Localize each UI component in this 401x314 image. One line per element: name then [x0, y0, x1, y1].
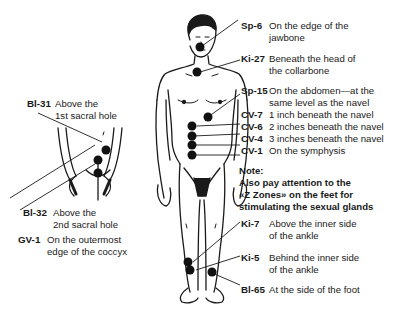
- code-cv7: CV-7: [241, 109, 263, 120]
- code-bl32: Bl-32: [23, 207, 47, 218]
- desc-sp6-1: On the edge of the: [269, 20, 348, 31]
- desc-ki5-1: Behind the inner side: [269, 252, 359, 263]
- desc-ki5-2: of the ankle: [269, 264, 319, 275]
- desc-ki27-2: the collarbone: [269, 65, 329, 76]
- point-gv1: [94, 169, 103, 178]
- desc-cv4: 3 inches beneath the navel: [269, 133, 384, 144]
- desc-bl32-1: Above the: [53, 207, 96, 218]
- desc-cv7: 1 inch beneath the navel: [269, 109, 374, 120]
- code-ki27: Ki-27: [241, 53, 265, 64]
- point-bl65: [208, 268, 217, 277]
- point-bl31: [102, 146, 111, 155]
- point-sp6: [196, 43, 205, 52]
- code-gv1: GV-1: [18, 234, 40, 245]
- code-sp6: Sp-6: [241, 20, 262, 31]
- point-cv1: [188, 151, 197, 160]
- desc-bl31-2: 1st sacral hole: [55, 110, 117, 121]
- point-cv7: [188, 122, 197, 131]
- point-cv4: [188, 141, 197, 150]
- code-cv4: CV-4: [241, 133, 263, 144]
- point-bl32: [94, 156, 103, 165]
- desc-gv1-1: On the outermost: [47, 234, 121, 245]
- note-line-2: «Z Zones» on the feet for: [239, 189, 353, 200]
- desc-bl32-2: 2nd sacral hole: [53, 219, 118, 230]
- code-sp15: Sp-15: [241, 85, 268, 96]
- point-ki27: [193, 68, 202, 77]
- point-sp15: [204, 113, 213, 122]
- desc-sp6-2: jawbone: [269, 32, 305, 43]
- code-cv1: CV-1: [241, 145, 263, 156]
- desc-bl31-1: Above the: [55, 98, 98, 109]
- note-line-1: Also pay attention to the: [239, 177, 351, 188]
- note-line-3: stimulating the sexual glands: [239, 201, 373, 212]
- desc-gv1-2: edge of the coccyx: [47, 246, 127, 257]
- code-cv6: CV-6: [241, 121, 263, 132]
- acupressure-figure: [0, 0, 401, 314]
- desc-sp15-1: On the abdomen—at the: [269, 85, 374, 96]
- code-ki7: Ki-7: [241, 218, 260, 229]
- desc-bl65: At the side of the foot: [269, 284, 360, 295]
- point-ki5: [186, 266, 195, 275]
- desc-sp15-2: same level as the navel: [269, 97, 369, 108]
- code-ki5: Ki-5: [241, 252, 260, 263]
- desc-cv6: 2 inches beneath the navel: [269, 121, 384, 132]
- point-cv6: [188, 132, 197, 141]
- hair: [188, 15, 216, 34]
- desc-ki27-1: Beneath the head of: [269, 53, 355, 64]
- desc-cv1: On the symphysis: [269, 145, 345, 156]
- code-bl31: Bl-31: [27, 98, 51, 109]
- note-title: Note:: [239, 165, 264, 176]
- point-ki7: [184, 258, 193, 267]
- desc-ki7-1: Above the inner side: [269, 218, 356, 229]
- desc-ki7-2: of the ankle: [269, 230, 319, 241]
- code-bl65: Bl-65: [241, 284, 265, 295]
